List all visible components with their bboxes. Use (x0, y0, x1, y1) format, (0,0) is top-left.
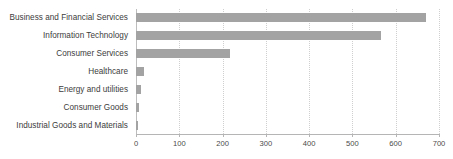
category-label: Business and Financial Services (10, 9, 129, 27)
x-axis-line (136, 134, 439, 135)
bar (136, 31, 381, 40)
gridline-400 (309, 9, 310, 134)
x-tick (179, 134, 180, 137)
bar (136, 49, 230, 58)
x-tick-label: 200 (216, 139, 229, 148)
bar (136, 67, 144, 76)
bar (136, 103, 139, 112)
x-tick (352, 134, 353, 137)
bar-chart: Business and Financial ServicesInformati… (0, 0, 453, 159)
x-tick-label: 100 (173, 139, 186, 148)
category-label: Industrial Goods and Materials (16, 117, 128, 135)
x-tick-label: 600 (389, 139, 402, 148)
x-tick (439, 134, 440, 137)
category-label: Healthcare (88, 63, 128, 81)
category-label: Energy and utilities (58, 81, 128, 99)
category-axis: Business and Financial ServicesInformati… (0, 0, 132, 132)
bar (136, 121, 138, 130)
category-label: Consumer Services (56, 45, 128, 63)
x-tick (266, 134, 267, 137)
x-tick (309, 134, 310, 137)
x-tick-label: 300 (260, 139, 273, 148)
gridline-600 (396, 9, 397, 134)
x-tick-label: 400 (303, 139, 316, 148)
x-tick-label: 700 (433, 139, 446, 148)
category-label: Information Technology (43, 27, 128, 45)
x-tick-label: 500 (346, 139, 359, 148)
bar (136, 85, 141, 94)
gridline-200 (223, 9, 224, 134)
gridline-500 (352, 9, 353, 134)
x-tick-label: 0 (134, 139, 138, 148)
bar (136, 13, 426, 22)
gridline-300 (266, 9, 267, 134)
x-tick (223, 134, 224, 137)
gridline-700 (439, 9, 440, 134)
category-label: Consumer Goods (64, 99, 128, 117)
x-tick (136, 134, 137, 137)
gridline-100 (179, 9, 180, 134)
plot-area (136, 9, 439, 134)
x-tick (396, 134, 397, 137)
